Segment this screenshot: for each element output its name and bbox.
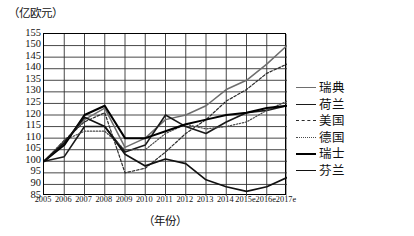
y-axis-tick: 125	[25, 97, 41, 108]
legend-item-label: 荷兰	[319, 99, 345, 112]
legend-item-label: 芬兰	[319, 165, 345, 178]
series-line-2	[44, 64, 287, 173]
chart-legend: 瑞典荷兰美国德国瑞士芬兰	[296, 80, 412, 179]
y-axis-tick: 105	[25, 143, 41, 154]
y-axis-tick: 140	[25, 62, 41, 73]
y-axis-tick: 130	[25, 85, 41, 96]
legend-item-label: 瑞士	[319, 148, 345, 161]
y-axis-tick: 95	[31, 166, 42, 177]
legend-item-0: 瑞典	[296, 80, 412, 97]
y-axis-tick: 110	[26, 132, 41, 143]
y-axis-tick: 145	[25, 51, 41, 62]
series-lines	[44, 34, 287, 196]
legend-item-label: 德国	[319, 132, 345, 145]
y-axis-tick: 120	[25, 109, 41, 120]
series-line-0	[44, 46, 287, 162]
y-axis-tick: 135	[25, 74, 41, 85]
y-axis-tick: 100	[25, 155, 41, 166]
y-axis-tick: 150	[25, 39, 41, 50]
legend-item-3: 德国	[296, 130, 412, 147]
series-line-5	[44, 117, 287, 191]
y-axis-tick: 155	[25, 28, 41, 39]
legend-item-label: 美国	[319, 115, 345, 128]
x-axis-title: （年份）	[43, 212, 286, 228]
y-axis-tick: 90	[31, 178, 42, 189]
legend-item-1: 荷兰	[296, 97, 412, 114]
x-axis-tick-labels: 2005200620072008200920102011201220132014…	[0, 196, 414, 212]
chart-figure: （亿欧元） 1551501451401351301251201151101051…	[0, 0, 414, 236]
legend-item-4: 瑞士	[296, 146, 412, 163]
legend-item-5: 芬兰	[296, 163, 412, 180]
x-axis-tick: 2017e	[269, 196, 303, 204]
plot-area	[43, 33, 286, 195]
legend-item-2: 美国	[296, 113, 412, 130]
legend-item-label: 瑞典	[319, 82, 345, 95]
y-axis-tick: 115	[26, 120, 41, 131]
